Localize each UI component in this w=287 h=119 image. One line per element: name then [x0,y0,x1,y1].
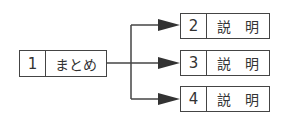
target-node: 3 説 明 [180,50,270,76]
target-node: 2 説 明 [180,13,270,39]
source-node: 1 まとめ [19,50,107,77]
arrow-icon [158,19,180,31]
node-label: まとめ [46,51,106,76]
arrow-icon [158,93,180,105]
target-node: 4 説 明 [180,86,270,112]
arrow-icon [158,57,180,69]
node-label: 説 明 [207,14,269,38]
node-number: 1 [20,51,46,76]
node-number: 2 [181,14,207,38]
node-label: 説 明 [207,87,269,111]
node-number: 3 [181,51,207,75]
node-label: 説 明 [207,51,269,75]
node-number: 4 [181,87,207,111]
